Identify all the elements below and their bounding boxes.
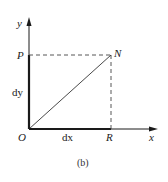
diagram-canvas: y P dy O dx R x N (b) <box>0 0 168 182</box>
y-axis-arrow-icon <box>27 17 32 26</box>
x-axis-label: x <box>148 131 154 143</box>
dy-label: dy <box>12 86 24 98</box>
point-p-label: P <box>16 49 24 61</box>
point-r-label: R <box>105 131 113 143</box>
origin-label: O <box>18 131 26 143</box>
dx-label: dx <box>62 131 74 143</box>
diagonal-o-n <box>29 55 111 129</box>
figure-caption: (b) <box>77 157 89 169</box>
y-axis-label: y <box>16 17 22 29</box>
point-n-label: N <box>113 47 122 59</box>
